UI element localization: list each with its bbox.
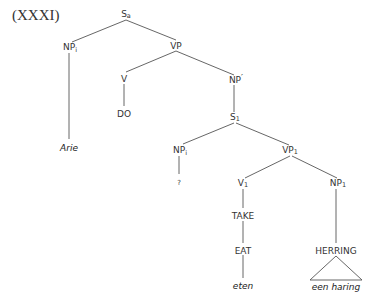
terminal-do: DO [117, 109, 131, 119]
node-s-1: S1 [230, 112, 240, 123]
edge-s1-npi [183, 123, 234, 144]
edge-sa-npi [72, 20, 126, 42]
edge-vp1-v1 [245, 156, 290, 178]
syntax-tree-diagram: (XXXI) Sa NPi VP V NP′ DO S1 Arie NPi VP… [0, 0, 370, 294]
terminal-question-mark: ? [177, 179, 181, 187]
lexical-een-haring: een haring [312, 282, 361, 292]
figure-number: (XXXI) [12, 7, 59, 24]
node-np-1: NP1 [330, 178, 346, 189]
lexical-eten: eten [233, 281, 254, 291]
terminal-eat: EAT [235, 246, 252, 256]
edge-vp-npprime [176, 51, 234, 75]
node-v: V [121, 74, 128, 84]
node-np-prime: NP′ [229, 73, 243, 85]
lexical-arie: Arie [59, 143, 78, 153]
terminal-take: TAKE [231, 211, 255, 221]
node-np-i: NPi [63, 42, 77, 54]
triangle-abbreviation-icon [310, 256, 362, 280]
edge-sa-vp [126, 20, 176, 40]
node-v-1: V1 [238, 178, 248, 189]
node-vp-1: VP1 [282, 145, 298, 156]
edge-s1-vp1 [236, 123, 289, 145]
node-s-a: Sa [121, 9, 131, 20]
edge-vp1-np1 [292, 156, 337, 178]
edge-vp-v [126, 51, 176, 72]
tree-edges [69, 20, 362, 280]
node-vp: VP [170, 41, 182, 51]
node-np-i-embedded: NPi [173, 145, 187, 157]
terminal-herring: HERRING [315, 246, 356, 256]
